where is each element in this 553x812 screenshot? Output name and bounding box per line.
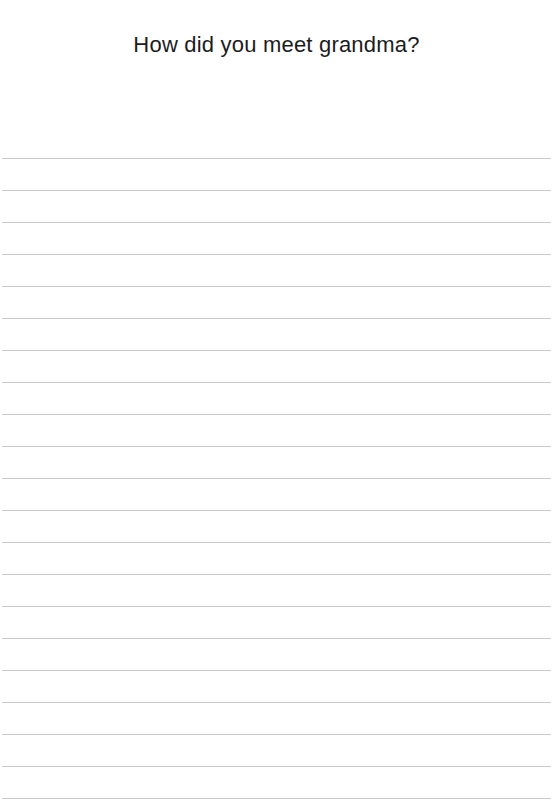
writing-input-area[interactable] (0, 140, 553, 812)
prompt-header: How did you meet grandma? (0, 0, 553, 158)
page-title: How did you meet grandma? (133, 31, 419, 59)
writing-prompt-page: How did you meet grandma? (0, 0, 553, 812)
